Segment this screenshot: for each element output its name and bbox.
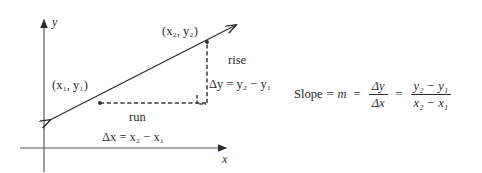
point-x2y2-dot [205, 40, 209, 44]
run-equation-label: Δx = x₂ − x₁ [102, 131, 164, 144]
rise-word-label: rise [228, 54, 246, 67]
coordinate-fraction: y₂ − y₁ x₂ − x₁ [411, 79, 451, 111]
equals-sign-2: = [349, 87, 366, 102]
slope-diagram-figure: y x (x₂, y₂) (x₁, y₁) rise Δy = y₂ − y₁ … [0, 0, 482, 173]
coordinate-fraction-denominator: x₂ − x₁ [411, 96, 451, 110]
equals-sign-3: = [391, 87, 408, 102]
delta-fraction-numerator: Δy [369, 79, 388, 93]
delta-fraction-bar [369, 94, 388, 95]
coordinate-fraction-numerator: y₂ − y₁ [411, 79, 451, 93]
delta-fraction: Δy Δx [369, 79, 388, 111]
y-axis-label: y [52, 16, 57, 28]
slope-variable-m: m [336, 87, 349, 102]
point-x2y2-label: (x₂, y₂) [162, 25, 198, 38]
equals-sign-1: = [324, 87, 335, 102]
coordinate-fraction-bar [411, 94, 451, 95]
sloped-line [50, 25, 236, 120]
slope-word: Slope [292, 87, 324, 102]
point-x1y1-dot [98, 101, 102, 105]
run-word-label: run [129, 111, 146, 124]
point-x1y1-label: (x₁, y₁) [52, 79, 88, 92]
rise-equation-label: Δy = y₂ − y₁ [209, 78, 271, 91]
delta-fraction-denominator: Δx [369, 96, 388, 110]
slope-formula: Slope = m = Δy Δx = y₂ − y₁ x₂ − x₁ [292, 79, 454, 111]
x-axis-label: x [222, 153, 227, 165]
